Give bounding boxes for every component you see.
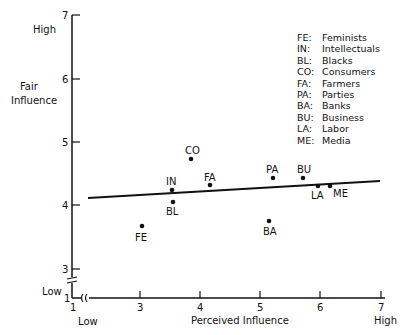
point-la xyxy=(316,184,321,189)
point-label-fa: FA xyxy=(204,172,216,183)
point-label-in: IN xyxy=(166,176,176,187)
legend-item: BA:Banks xyxy=(297,100,380,111)
point-me xyxy=(328,184,333,189)
point-label-la: LA xyxy=(311,190,324,201)
x-tick-7: 7 xyxy=(378,302,384,313)
point-co xyxy=(189,157,194,162)
point-fa xyxy=(208,183,213,188)
point-label-pa: PA xyxy=(266,164,278,175)
point-bu xyxy=(301,176,306,181)
x-tick-4: 4 xyxy=(197,302,203,313)
legend-item: BL:Blacks xyxy=(297,55,380,66)
point-label-me: ME xyxy=(333,188,348,199)
y-tick-3: 3 xyxy=(62,264,68,275)
legend-item: FE:Feminists xyxy=(297,32,380,43)
x-tick-3: 3 xyxy=(137,302,143,313)
legend-item: CO:Consumers xyxy=(297,66,380,77)
y-title-line2: Influence xyxy=(11,95,57,106)
legend-item: IN:Intellectuals xyxy=(297,43,380,54)
point-bl xyxy=(171,200,176,205)
legend-item: LA:Labor xyxy=(297,123,380,134)
point-label-bu: BU xyxy=(297,164,311,175)
legend-item: BU:Business xyxy=(297,112,380,123)
x-tick-1: 1 xyxy=(70,302,76,313)
y-low-label: Low xyxy=(42,286,62,297)
y-ticks xyxy=(72,15,80,269)
legend: FE:Feminists IN:Intellectuals BL:Blacks … xyxy=(297,32,380,146)
y-tick-7: 7 xyxy=(62,10,68,21)
x-axis-break xyxy=(81,294,89,302)
x-ticks xyxy=(140,291,381,298)
x-tick-6: 6 xyxy=(317,302,323,313)
x-axis-title: Perceived Influence xyxy=(191,315,289,326)
legend-item: ME:Media xyxy=(297,135,380,146)
y-title-line1: Fair xyxy=(20,81,38,92)
y-axis-break xyxy=(66,277,78,283)
point-ba xyxy=(267,219,272,224)
point-in xyxy=(170,188,175,193)
x-low-label: Low xyxy=(78,316,98,327)
point-pa xyxy=(271,176,276,181)
point-label-bl: BL xyxy=(166,206,178,217)
y-high-label: High xyxy=(33,24,56,35)
y-tick-5: 5 xyxy=(62,137,68,148)
legend-item: PA:Parties xyxy=(297,89,380,100)
legend-item: FA:Farmers xyxy=(297,78,380,89)
y-tick-6: 6 xyxy=(62,74,68,85)
point-fe xyxy=(140,224,145,229)
x-high-label: High xyxy=(374,315,397,326)
x-tick-5: 5 xyxy=(257,302,263,313)
point-label-fe: FE xyxy=(135,232,147,243)
point-label-co: CO xyxy=(185,145,200,156)
point-label-ba: BA xyxy=(263,226,277,237)
y-tick-4: 4 xyxy=(62,200,68,211)
